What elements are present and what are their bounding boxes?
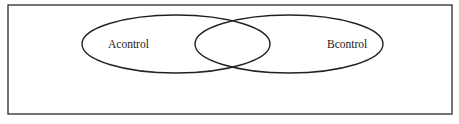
venn-diagram: Acontrol Bcontrol: [0, 0, 459, 124]
set-b-label: Bcontrol: [327, 38, 367, 50]
set-a-label: Acontrol: [108, 38, 149, 50]
